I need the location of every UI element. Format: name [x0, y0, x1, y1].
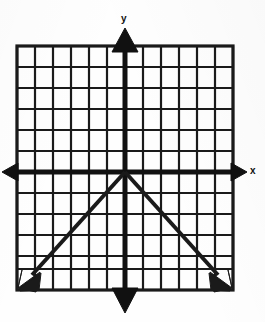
function-right-arrow-fill — [209, 273, 231, 291]
x-axis-left-arrow-icon — [2, 163, 18, 181]
function-right-branch — [125, 172, 218, 275]
function-left-arrow-fill — [19, 273, 41, 291]
y-axis-label: y — [121, 14, 127, 24]
graph-canvas: y x — [0, 0, 265, 322]
coordinate-plane-svg — [0, 0, 265, 322]
function-left-branch — [32, 172, 125, 275]
y-axis-top-arrow-icon — [112, 28, 138, 52]
y-axis-bottom-arrow-icon — [112, 288, 138, 313]
x-axis-label: x — [250, 166, 256, 176]
x-axis-right-arrow-icon — [231, 163, 247, 181]
